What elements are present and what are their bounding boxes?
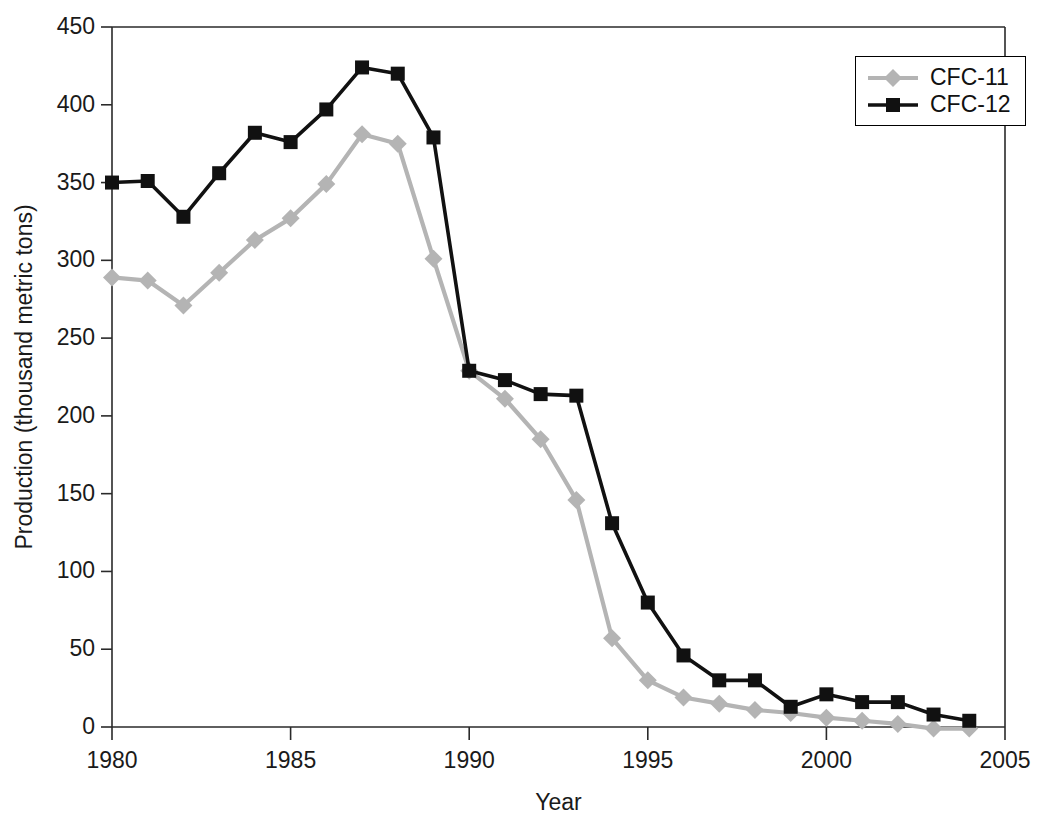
data-point-marker bbox=[605, 516, 619, 530]
x-tick-label: 1980 bbox=[86, 749, 137, 772]
y-tick-label: 250 bbox=[57, 326, 95, 349]
data-point-marker bbox=[675, 688, 693, 706]
data-point-marker bbox=[889, 715, 907, 733]
data-point-marker bbox=[498, 373, 512, 387]
y-tick-label: 450 bbox=[57, 15, 95, 38]
data-point-marker bbox=[817, 709, 835, 727]
legend-label: CFC-12 bbox=[930, 93, 1011, 116]
y-tick-label: 350 bbox=[57, 171, 95, 194]
y-tick-label: 0 bbox=[82, 715, 95, 738]
data-series-layer bbox=[103, 60, 978, 737]
data-point-marker bbox=[426, 130, 440, 144]
legend-label: CFC-11 bbox=[930, 66, 1009, 89]
data-point-marker bbox=[891, 695, 905, 709]
data-point-marker bbox=[105, 176, 119, 190]
data-point-marker bbox=[567, 491, 585, 509]
data-point-marker bbox=[212, 166, 226, 180]
data-point-marker bbox=[712, 673, 726, 687]
y-tick-label: 150 bbox=[57, 482, 95, 505]
legend-item-cfc-11: CFC-11 bbox=[866, 64, 1011, 91]
data-point-marker bbox=[569, 389, 583, 403]
data-point-marker bbox=[641, 596, 655, 610]
legend-item-cfc-12: CFC-12 bbox=[866, 91, 1011, 118]
data-point-marker bbox=[141, 174, 155, 188]
x-tick-label: 2005 bbox=[979, 749, 1030, 772]
data-point-marker bbox=[925, 720, 943, 738]
axis-frame bbox=[112, 27, 1005, 727]
data-point-marker bbox=[389, 135, 407, 153]
x-tick-label: 1995 bbox=[622, 749, 673, 772]
data-point-marker bbox=[424, 250, 442, 268]
data-point-marker bbox=[819, 687, 833, 701]
data-point-marker bbox=[710, 695, 728, 713]
y-tick-label: 200 bbox=[57, 404, 95, 427]
y-axis-title: Production (thousand metric tons) bbox=[11, 204, 37, 549]
data-point-marker bbox=[748, 673, 762, 687]
data-point-marker bbox=[176, 210, 190, 224]
data-point-marker bbox=[855, 695, 869, 709]
legend-swatch-diamond-icon bbox=[866, 68, 920, 88]
data-point-marker bbox=[962, 714, 976, 728]
x-axis-title: Year bbox=[535, 789, 581, 816]
chart-legend: CFC-11CFC-12 bbox=[855, 56, 1026, 126]
data-point-marker bbox=[677, 648, 691, 662]
data-point-marker bbox=[462, 364, 476, 378]
data-point-marker bbox=[355, 60, 369, 74]
y-tick-label: 400 bbox=[57, 93, 95, 116]
data-point-marker bbox=[248, 126, 262, 140]
x-tick-label: 2000 bbox=[801, 749, 852, 772]
data-point-marker bbox=[927, 708, 941, 722]
legend-swatch-square-icon bbox=[866, 95, 920, 115]
data-point-marker bbox=[534, 387, 548, 401]
series-cfc-12 bbox=[105, 60, 976, 727]
data-point-marker bbox=[391, 67, 405, 81]
data-point-marker bbox=[103, 268, 121, 286]
y-tick-label: 50 bbox=[69, 637, 95, 660]
x-tick-label: 1990 bbox=[444, 749, 495, 772]
y-tick-label: 100 bbox=[57, 559, 95, 582]
data-point-marker bbox=[284, 135, 298, 149]
data-point-marker bbox=[784, 700, 798, 714]
tick-marks bbox=[101, 27, 1005, 740]
data-point-marker bbox=[319, 102, 333, 116]
data-point-marker bbox=[884, 69, 902, 87]
cfc-production-line-chart: Production (thousand metric tons) 450400… bbox=[0, 0, 1048, 821]
data-point-marker bbox=[886, 98, 900, 112]
y-tick-label: 300 bbox=[57, 248, 95, 271]
data-point-marker bbox=[746, 701, 764, 719]
x-tick-label: 1985 bbox=[265, 749, 316, 772]
series-cfc-11 bbox=[103, 125, 978, 737]
